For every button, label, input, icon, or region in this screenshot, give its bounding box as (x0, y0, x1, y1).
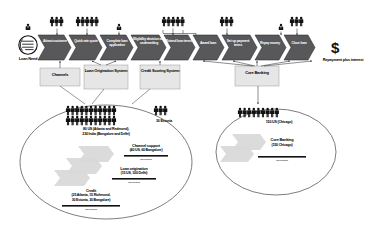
ribbon-credit-bar-caption: value stream bar (62, 208, 120, 210)
repayment-label: Repayment plus interest (320, 58, 366, 62)
diagram-vector-layer: $ (0, 0, 366, 227)
left-ribbons (54, 146, 114, 186)
right-ribbon-bars (258, 156, 306, 158)
ribbon-core-banking-bar-caption: value stream bar (258, 159, 306, 161)
step-repay-money[interactable]: Repay money (256, 42, 284, 46)
right-headcount-icons (238, 108, 279, 118)
ribbon-channel-support-detail: (40 US, 60 Bangalore) (122, 149, 170, 153)
diagram-canvas: $ Loan Need Repayment plus interest Attr… (0, 0, 366, 227)
step-complete-loan-application[interactable]: Complete loan application (102, 40, 132, 47)
loan-need-icon (19, 36, 37, 54)
ribbon-channel-support-bar-caption: value stream bar (124, 158, 168, 160)
step-quick-rate-quote[interactable]: Quick rate quote (71, 40, 101, 44)
actor-icons-row (26, 17, 304, 30)
system-loan-origination[interactable]: Loan Origination System (84, 69, 128, 73)
step-close-loan[interactable]: Close loan (285, 42, 313, 46)
svg-text:$: $ (331, 39, 340, 56)
ribbon-loan-origination-detail: (15 US, 100 Delhi) (110, 172, 158, 176)
estonia-headcount-label: 30 Estonia (148, 120, 180, 124)
step-award-loan[interactable]: Award loan (194, 42, 222, 46)
system-credit-scoring[interactable]: Credit Scoring System (138, 69, 182, 73)
step-extend-loan-terms[interactable]: Extend loan terms (165, 40, 193, 44)
left-headcount-line-2: 230 India (Bangalore and Delhi) (52, 133, 160, 137)
step-attract-customer[interactable]: Attract customer (40, 40, 70, 44)
loan-need-label: Loan Need (8, 57, 48, 61)
actor-connectors (57, 29, 297, 36)
estonia-headcount-icons (154, 106, 167, 116)
left-headcount-icons (66, 106, 116, 126)
right-headcount-label: 150 US (Chicago) (232, 121, 326, 125)
ribbon-core-banking-title: Core Banking (258, 138, 306, 142)
ribbon-loan-origination-bar-caption: value stream bar (112, 181, 156, 183)
system-core-banking[interactable]: Core Banking (235, 71, 279, 75)
repayment-dollar-icon: $ (331, 39, 340, 56)
ribbon-credit-detail-2: 30 Estonia, 30 Bangalore) (60, 199, 122, 203)
step-eligibility-decision[interactable]: Eligibility decision and underwriting (133, 38, 165, 45)
system-channels[interactable]: Channels (38, 73, 82, 77)
ribbon-core-banking-detail: (150 Chicago) (258, 144, 306, 148)
step-set-up-payment-terms[interactable]: Set up payment terms (223, 40, 253, 47)
